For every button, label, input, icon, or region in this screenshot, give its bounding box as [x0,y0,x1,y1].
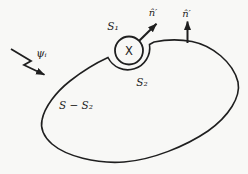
indentation-surface-label: S₂ [136,76,147,88]
normal-left-label: n̂′ [149,7,158,18]
outer-surface-label: S − S₂ [59,99,93,111]
source-region-label: S₁ [107,20,118,32]
diagram-canvas: X ψᵢ n̂′ n̂′ S₁ S₂ S − S₂ [0,0,248,174]
incident-wave-label: ψᵢ [36,47,46,59]
normal-right-label: n̂′ [182,8,191,19]
normal-arrow-left [139,24,157,41]
scattering-surface-diagram: X ψᵢ n̂′ n̂′ S₁ S₂ S − S₂ [0,0,248,174]
source-x-label: X [125,44,133,58]
